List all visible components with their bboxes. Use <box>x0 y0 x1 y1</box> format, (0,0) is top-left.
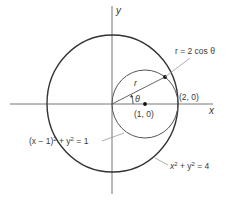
center-point-label: (1, 0) <box>134 109 154 119</box>
small-circle-eq-leader <box>102 133 124 141</box>
polar-diagram: y x r θ (1, 0) (2, 0) r = 2 cos θ (x − 1… <box>0 0 227 202</box>
polar-equation-label: r = 2 cos θ <box>175 46 215 56</box>
x-axis-label: x <box>208 105 215 116</box>
large-circle-equation-label: x2 + y2 = 4 <box>169 161 210 172</box>
small-circle-equation-label: (x − 1)2 + y2 = 1 <box>29 136 89 147</box>
tangent-point-label: (2, 0) <box>179 92 199 102</box>
y-axis-label: y <box>115 5 122 16</box>
radius-label: r <box>134 78 138 88</box>
center-point <box>143 102 147 106</box>
angle-label: θ <box>135 94 140 104</box>
large-circle-eq-leader <box>155 158 168 165</box>
